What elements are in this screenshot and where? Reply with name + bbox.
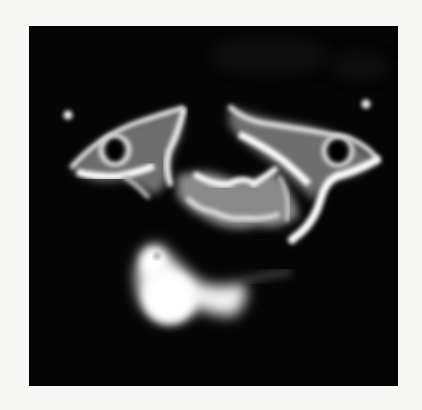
lower-mass [136,245,291,324]
scan-image [29,26,398,386]
soft-tissue-haze [209,38,389,80]
left-wing [71,108,184,198]
central-body [177,168,299,229]
scan-graphic [29,26,398,386]
fiducial-markers [64,100,371,120]
